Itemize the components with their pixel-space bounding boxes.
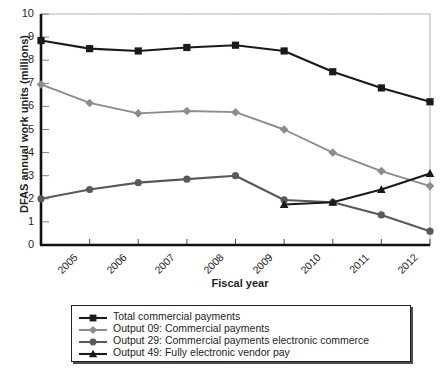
data-point-marker (183, 107, 192, 116)
chart-figure: DFAS annual work units (millions) Fiscal… (0, 0, 441, 370)
data-point-marker (280, 125, 289, 134)
data-point-marker (89, 326, 97, 334)
diamond-marker-icon (78, 322, 108, 334)
series-group-0 (37, 37, 433, 105)
data-point-marker (378, 211, 385, 218)
data-point-marker (37, 37, 44, 44)
data-point-marker (90, 315, 97, 322)
data-point-marker (86, 186, 93, 193)
series-group-2 (37, 172, 433, 235)
data-point-marker (426, 228, 433, 235)
data-point-marker (426, 98, 433, 105)
series-line (41, 41, 430, 102)
data-point-marker (231, 108, 240, 117)
line-chart-plot (0, 0, 441, 296)
data-point-marker (134, 109, 143, 118)
series-line (41, 176, 430, 231)
data-point-marker (90, 339, 97, 346)
data-point-marker (232, 42, 239, 49)
data-point-marker (328, 148, 337, 157)
legend-item-label: Output 29: Commercial payments electroni… (113, 334, 369, 346)
plot-area-container: DFAS annual work units (millions) Fiscal… (0, 0, 441, 296)
triangle-marker-icon (78, 346, 108, 358)
data-point-marker (232, 172, 239, 179)
legend-item[interactable]: Output 29: Commercial payments electroni… (78, 334, 404, 346)
circle-marker-icon (78, 334, 108, 346)
square-marker-icon (78, 310, 108, 322)
data-point-marker (135, 47, 142, 54)
data-point-marker (329, 68, 336, 75)
series-line (41, 84, 430, 186)
series-group-3 (280, 169, 435, 208)
legend-item[interactable]: Total commercial payments (78, 310, 404, 322)
legend-item-label: Output 49: Fully electronic vendor pay (113, 346, 290, 358)
data-point-marker (135, 179, 142, 186)
data-point-marker (281, 47, 288, 54)
series-line (284, 173, 430, 204)
data-point-marker (377, 167, 386, 176)
chart-legend: Total commercial paymentsOutput 09: Comm… (71, 305, 411, 362)
data-point-marker (426, 169, 435, 177)
data-point-marker (86, 45, 93, 52)
data-point-marker (85, 99, 94, 108)
legend-item[interactable]: Output 09: Commercial payments (78, 322, 404, 334)
data-point-marker (37, 80, 46, 89)
data-point-marker (183, 176, 190, 183)
data-point-marker (378, 84, 385, 91)
data-point-marker (183, 44, 190, 51)
data-point-marker (426, 182, 435, 191)
legend-item-label: Output 09: Commercial payments (113, 322, 269, 334)
legend-item-label: Total commercial payments (113, 310, 240, 322)
data-point-marker (37, 195, 44, 202)
legend-item[interactable]: Output 49: Fully electronic vendor pay (78, 346, 404, 358)
